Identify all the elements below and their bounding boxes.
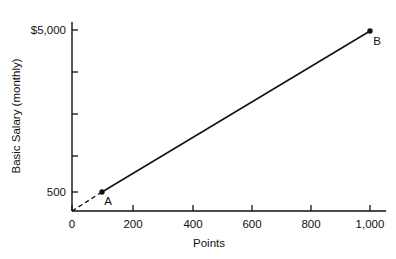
x-tick-label-1000: 1,000 [356, 218, 385, 230]
series-line-extrapolated [72, 192, 102, 211]
data-point-b [367, 28, 372, 33]
x-tick-label-800: 800 [301, 218, 320, 230]
series-line-solid [102, 31, 370, 192]
x-tick-label-600: 600 [242, 218, 261, 230]
x-axis-title: Points [193, 237, 225, 249]
y-tick-label-bottom: 500 [47, 186, 66, 198]
data-point-a-label: A [104, 195, 112, 207]
y-axis-title: Basic Salary (monthly) [10, 58, 22, 173]
y-tick-label-top: $5,000 [31, 24, 66, 36]
x-tick-label-400: 400 [183, 218, 202, 230]
chart-container: A B $5,000 500 0 200 400 600 800 1,000 P… [0, 0, 396, 259]
line-chart: A B $5,000 500 0 200 400 600 800 1,000 P… [0, 0, 396, 259]
x-tick-label-200: 200 [123, 218, 142, 230]
x-tick-label-0: 0 [69, 218, 75, 230]
data-point-b-label: B [373, 35, 381, 47]
data-point-a [99, 189, 104, 194]
